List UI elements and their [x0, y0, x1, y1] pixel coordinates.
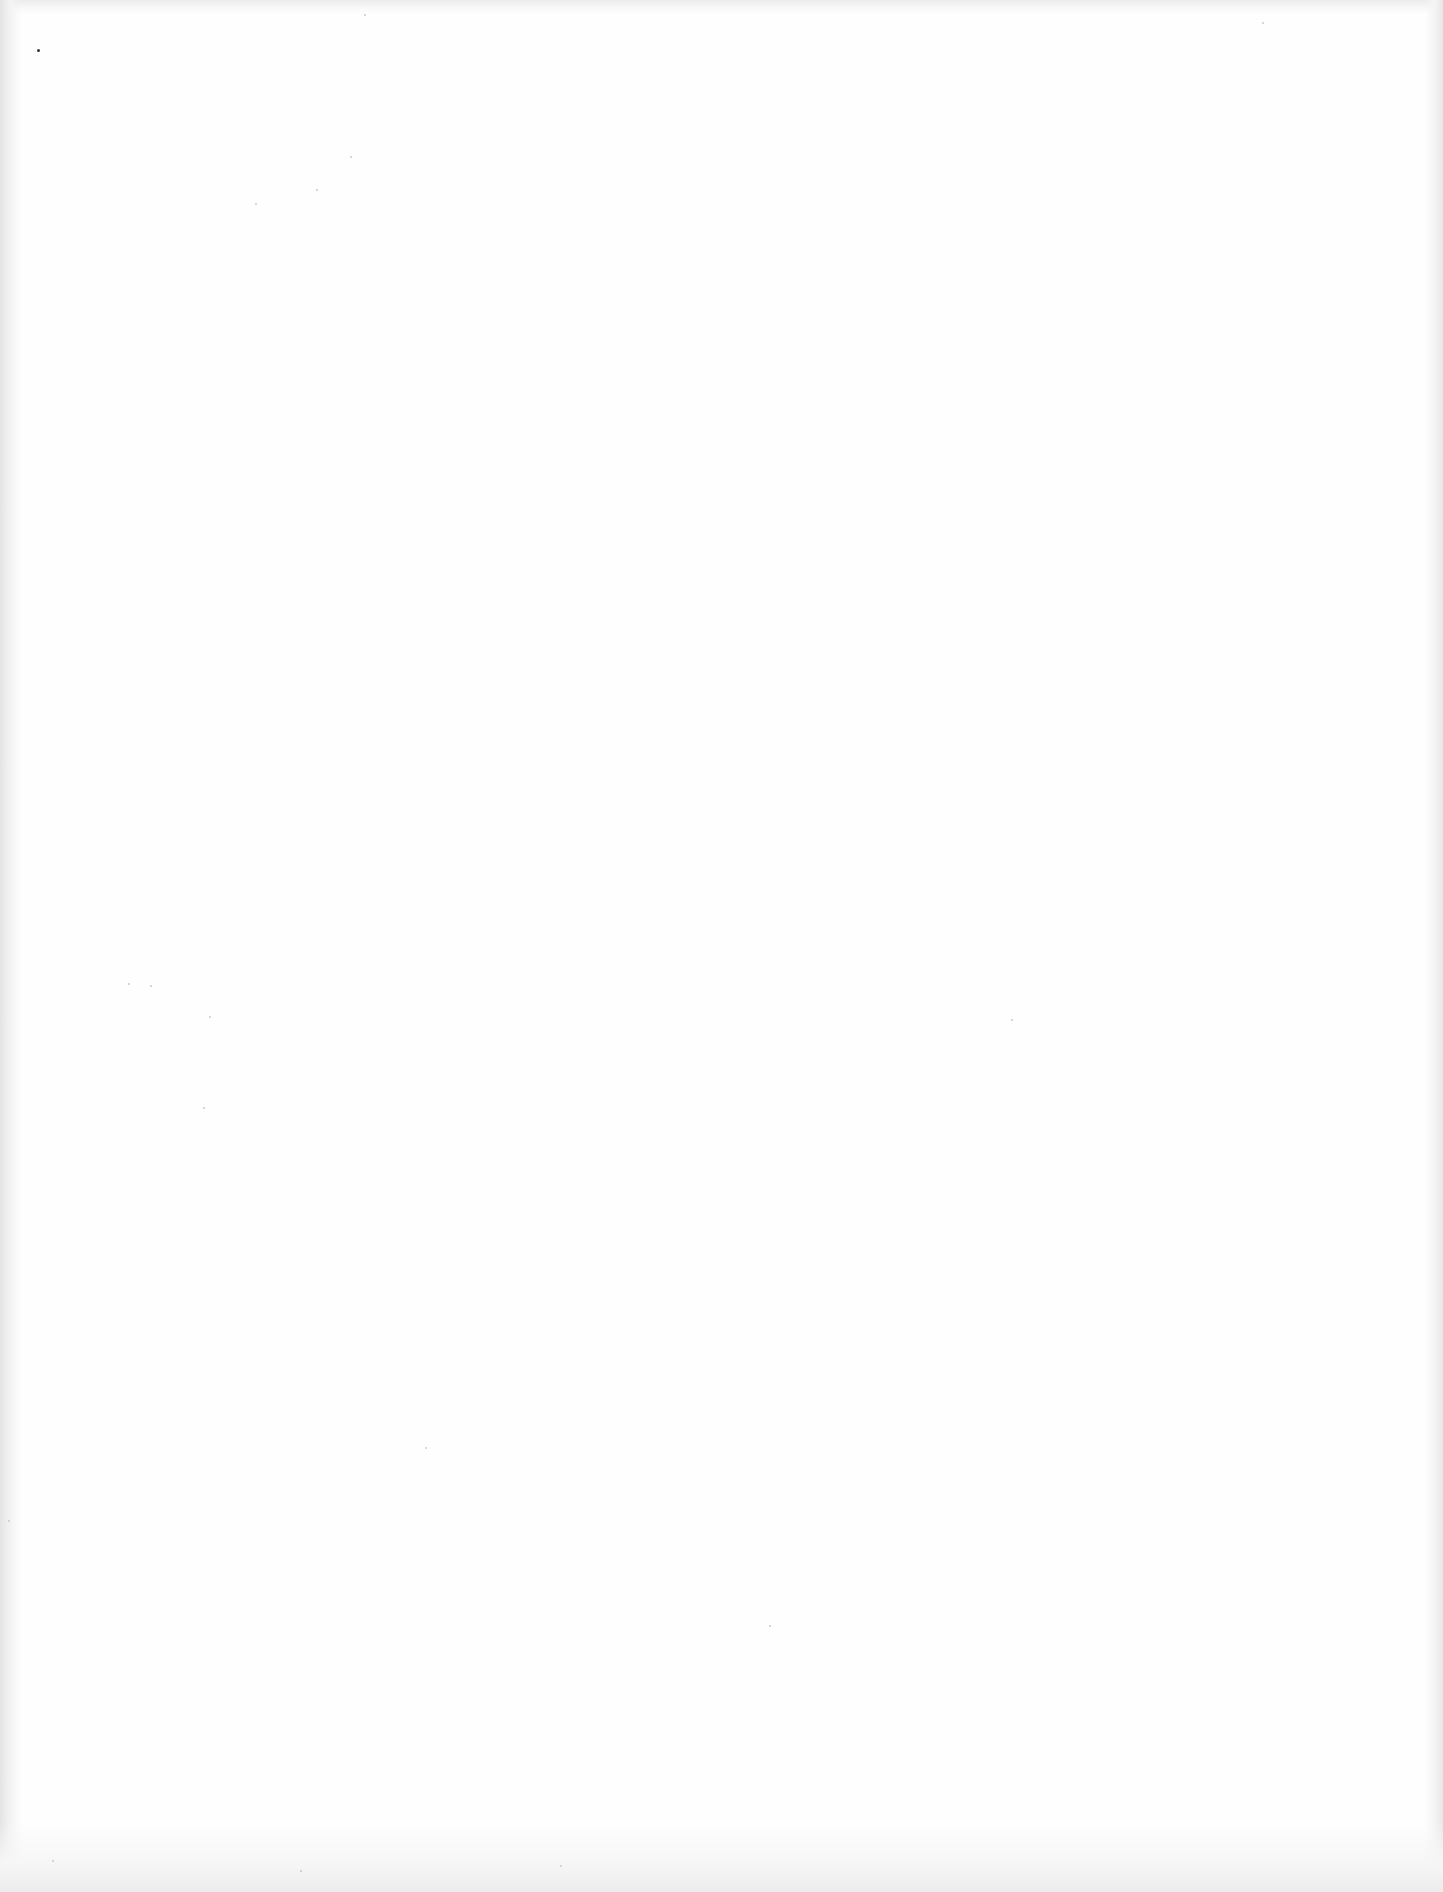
blank-scanned-page	[0, 0, 1443, 1892]
scan-speck	[316, 189, 318, 191]
scan-speck	[364, 14, 366, 16]
scan-speck	[52, 1860, 54, 1862]
scan-speck	[1011, 1019, 1013, 1021]
scan-edge-top	[0, 0, 1443, 14]
scan-speck	[37, 49, 40, 52]
scan-speck	[8, 1520, 10, 1522]
scan-speck	[203, 1107, 205, 1109]
scan-speck	[769, 1625, 771, 1627]
scan-speck	[350, 156, 352, 158]
scan-speck	[300, 1870, 302, 1872]
scan-speck	[128, 983, 130, 985]
scan-speck	[425, 1447, 427, 1449]
scan-edge-right	[1425, 0, 1443, 1892]
scan-speck	[209, 1016, 211, 1018]
scan-edge-bottom	[0, 1822, 1443, 1892]
scan-speck	[255, 203, 257, 205]
scan-speck	[560, 1865, 562, 1867]
scan-speck	[1262, 22, 1264, 24]
page-content-area	[120, 120, 1323, 1772]
scan-speck	[150, 985, 152, 987]
scan-edge-left	[0, 0, 22, 1892]
